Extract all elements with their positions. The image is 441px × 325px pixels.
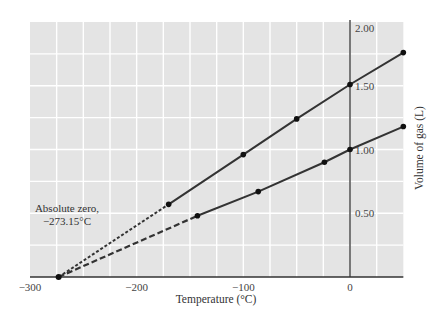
data-point: [347, 82, 353, 88]
x-axis-label: Temperature (°C): [176, 293, 257, 306]
data-point: [401, 124, 407, 130]
x-tick-label: −200: [125, 281, 148, 293]
data-point: [195, 213, 201, 219]
x-tick-labels: −300−200−1000: [19, 281, 354, 293]
data-point: [401, 50, 407, 56]
absolute-zero-label: Absolute zero,−273.15°C: [35, 202, 99, 227]
y-tick-label: 2.00: [355, 22, 375, 34]
x-tick-label: −100: [232, 281, 255, 293]
data-point: [241, 152, 247, 158]
x-tick-label: 0: [347, 281, 353, 293]
y-tick-label: 1.50: [355, 80, 375, 92]
data-point: [166, 202, 172, 208]
data-point: [294, 116, 300, 122]
x-tick-label: −300: [19, 281, 42, 293]
absolute-zero-point: [56, 274, 62, 280]
data-point: [255, 189, 261, 195]
y-tick-label: 0.50: [355, 207, 375, 219]
data-point: [322, 159, 328, 165]
charles-law-chart: −300−200−1000 0.501.001.502.00 Absolute …: [0, 0, 441, 325]
y-axis-label: Volume of gas (L): [413, 106, 426, 190]
data-point: [347, 147, 353, 153]
